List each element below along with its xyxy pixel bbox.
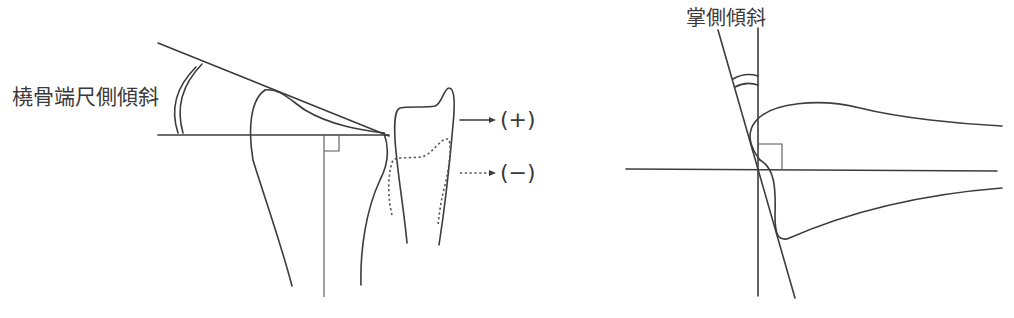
positive-variant-outline — [395, 88, 455, 245]
legend-solid-arrow — [460, 117, 496, 123]
right-panel-lateral-view — [626, 28, 1002, 298]
radiographic-angle-diagram: 橈骨端尺側傾斜 (+) (−) 掌側傾斜 — [0, 0, 1014, 318]
solid-arrowhead-icon — [489, 117, 496, 123]
left-panel-ap-view — [158, 43, 389, 297]
angle-arc-inner — [175, 67, 196, 133]
volar-tilt-tangent-line — [718, 30, 795, 298]
positive-variant-legend-label: (+) — [500, 107, 536, 132]
radius-radial-border — [251, 90, 292, 286]
radius-variant-sketch — [389, 88, 496, 245]
volar-tilt-label: 掌側傾斜 — [686, 2, 766, 31]
angle-arc-outer — [733, 75, 758, 79]
negative-variant-legend-label: (−) — [500, 160, 536, 185]
radius-volar-contour — [760, 160, 1002, 239]
radius-ulnar-border — [361, 133, 388, 285]
right-angle-marker — [758, 144, 782, 169]
angle-arc-inner — [735, 83, 758, 87]
diagram-canvas — [0, 0, 1014, 318]
dotted-arrowhead-icon — [489, 170, 496, 176]
radius-dorsal-contour — [750, 103, 1002, 160]
legend-dotted-arrow — [460, 170, 496, 176]
right-angle-marker — [324, 135, 339, 151]
articular-surface-tangent-line — [158, 43, 389, 136]
radius-long-axis-line — [626, 169, 997, 171]
angle-arc-outer — [180, 64, 202, 133]
radial-inclination-label: 橈骨端尺側傾斜 — [12, 80, 159, 110]
negative-variant-outline — [389, 139, 450, 225]
